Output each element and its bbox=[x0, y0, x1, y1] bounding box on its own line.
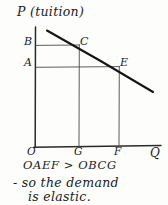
origin-label: O bbox=[27, 146, 36, 157]
price-line-a bbox=[36, 67, 120, 68]
conclusion-text-line-1: - so the demand bbox=[13, 177, 119, 190]
quantity-axis bbox=[34, 145, 161, 147]
quantity-label-f: F bbox=[114, 146, 122, 157]
area-inequality-text: OAEF > OBCG bbox=[23, 160, 117, 172]
conclusion-text-line-2: is elastic. bbox=[28, 191, 91, 204]
curve-point-label-c: C bbox=[80, 36, 89, 47]
price-label-b: B bbox=[24, 36, 32, 47]
y-axis-label: P (tuition) bbox=[17, 6, 84, 19]
curve-point-label-e: E bbox=[120, 57, 128, 68]
quantity-label-g: G bbox=[74, 146, 83, 157]
price-label-a: A bbox=[24, 57, 32, 68]
x-axis-label: Q bbox=[150, 147, 160, 159]
notebook-page: P (tuition) B A C E O G F Q OAEF > OBCG … bbox=[0, 0, 168, 205]
demand-curve bbox=[47, 31, 153, 93]
